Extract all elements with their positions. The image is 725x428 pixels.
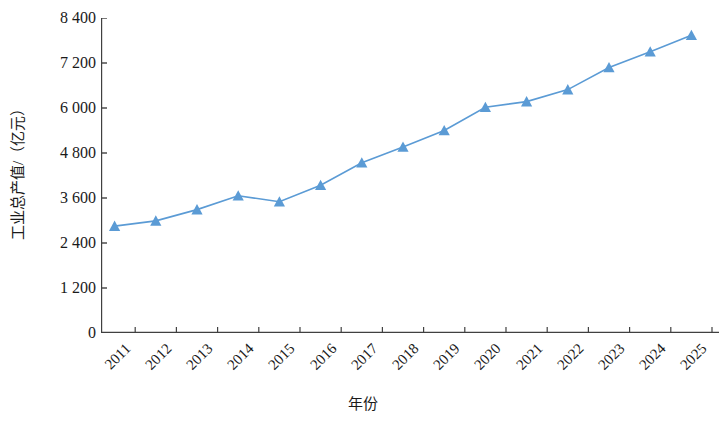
data-point-marker	[315, 180, 326, 190]
data-point-marker	[397, 141, 408, 151]
data-point-marker	[562, 84, 573, 94]
x-axis-tick-label: 2012	[134, 341, 174, 381]
y-axis-title: 工业总产值/（亿元）	[0, 0, 34, 340]
x-axis-tick-labels: 2011201220132014201520162017201820192020…	[0, 333, 725, 393]
plot-area	[101, 18, 719, 333]
data-point-marker	[439, 125, 450, 135]
y-axis-tick-label: 3 600	[34, 190, 96, 206]
data-point-marker	[191, 204, 202, 214]
data-point-marker	[645, 46, 656, 56]
y-axis-tick-label: 1 200	[34, 280, 96, 296]
x-axis-title-text: 年份	[348, 396, 378, 412]
x-axis-tick-label: 2022	[546, 341, 586, 381]
y-axis-tick-label: 6 000	[34, 100, 96, 116]
x-axis-tick-label: 2014	[216, 341, 256, 381]
y-axis-title-text: 工业总产值/（亿元）	[7, 100, 28, 239]
x-axis-tick-label: 2018	[381, 341, 421, 381]
data-point-markers	[109, 30, 697, 231]
industrial-output-line-chart: 工业总产值/（亿元） 01 2002 4003 6004 8006 0007 2…	[0, 0, 725, 428]
axes	[101, 18, 719, 333]
x-axis-tick-label: 2015	[258, 341, 298, 381]
x-axis-title: 年份	[0, 392, 725, 413]
data-line	[115, 35, 692, 226]
data-point-marker	[686, 30, 697, 40]
y-axis-tick-label: 2 400	[34, 235, 96, 251]
y-axis-tick-label: 7 200	[34, 55, 96, 71]
x-axis-tick-label: 2024	[628, 341, 668, 381]
y-axis-tick-label: 8 400	[34, 10, 96, 26]
chart-svg	[101, 18, 719, 333]
x-axis-tick-label: 2013	[175, 341, 215, 381]
y-axis-tick-label: 4 800	[34, 145, 96, 161]
x-axis-tick-label: 2017	[340, 341, 380, 381]
x-axis-tick-label: 2019	[422, 341, 462, 381]
x-axis-tick-label: 2011	[93, 341, 133, 381]
data-point-marker	[603, 62, 614, 72]
x-axis-tick-label: 2023	[587, 341, 627, 381]
x-axis-tick-label: 2016	[299, 341, 339, 381]
data-point-marker	[233, 190, 244, 200]
data-point-marker	[356, 157, 367, 167]
x-axis-tick-label: 2021	[505, 341, 545, 381]
x-axis-tick-label: 2020	[464, 341, 504, 381]
x-axis-tick-label: 2025	[670, 341, 710, 381]
